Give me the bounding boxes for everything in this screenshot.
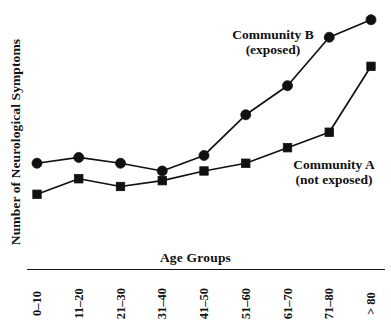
x-tick-label-0-10: 0–10 (31, 278, 44, 327)
marker-community-b-point-61-70 (283, 81, 293, 91)
marker-community-b-point-71-80 (324, 32, 334, 42)
marker-community-a-point-31-40 (158, 176, 166, 184)
series-annotation-community-a-name: Community A (293, 157, 374, 172)
marker-community-b-point-21-30 (116, 158, 126, 168)
marker-community-a-point-41-50 (200, 167, 208, 175)
x-axis-title: Age Groups (0, 250, 391, 266)
marker-community-a-point-21-30 (116, 182, 124, 190)
x-tick-label-80: > 80 (365, 278, 378, 327)
marker-community-b-point-41-50 (199, 150, 209, 160)
marker-community-a-point-51-60 (242, 159, 250, 167)
marker-community-b-point-0-10 (32, 158, 42, 168)
x-tick-label-61-70: 61–70 (281, 278, 294, 327)
x-tick-label-71-80: 71–80 (323, 278, 336, 327)
x-tick-label-51-60: 51–60 (239, 278, 252, 327)
marker-community-a-point-11-20 (75, 175, 83, 183)
series-annotation-community-b-qualifier: (exposed) (221, 43, 325, 58)
x-tick-label-21-30: 21–30 (114, 278, 127, 327)
series-annotation-community-a: Community A (not exposed) (281, 158, 387, 187)
marker-community-a-point-71-80 (325, 128, 333, 136)
marker-community-b-point-80 (366, 15, 376, 25)
marker-community-a-point-0-10 (33, 190, 41, 198)
x-tick-label-11-20: 11–20 (72, 278, 85, 327)
x-tick-label-41-50: 41–50 (198, 278, 211, 327)
series-annotation-community-b: Community B (exposed) (221, 28, 325, 57)
marker-community-b-point-11-20 (74, 152, 84, 162)
chart-figure: Number of Neurological Symptoms Communit… (0, 0, 391, 327)
marker-community-b-point-51-60 (241, 110, 251, 120)
marker-community-a-point-80 (367, 62, 375, 70)
x-tick-label-31-40: 31–40 (156, 278, 169, 327)
marker-community-a-point-61-70 (283, 144, 291, 152)
series-annotation-community-a-qualifier: (not exposed) (281, 173, 387, 188)
series-annotation-community-b-name: Community B (232, 27, 313, 42)
x-axis-line (27, 269, 385, 270)
marker-community-b-point-31-40 (157, 166, 167, 176)
